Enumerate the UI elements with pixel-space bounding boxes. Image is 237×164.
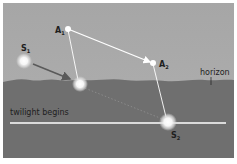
point-a2-icon [150, 60, 156, 66]
twilight-diagram: A1 A2 S1 S2 horizon twilight begins [0, 0, 237, 164]
point-a1-icon [65, 26, 71, 32]
sun-s1-icon [16, 53, 32, 69]
label-horizon: horizon [200, 68, 230, 77]
sun-horizon-icon [72, 76, 88, 92]
label-twilight-begins: twilight begins [10, 108, 69, 117]
ground-area [3, 79, 234, 158]
sun-s2-icon [159, 113, 177, 131]
